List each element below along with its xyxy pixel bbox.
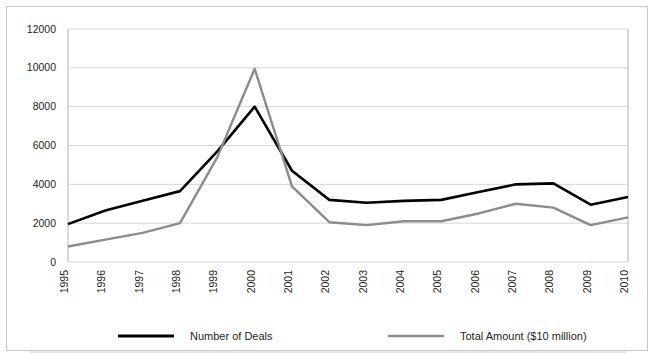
x-axis-tick-label: 2009: [581, 270, 593, 294]
chart-canvas: 020004000600080001000012000 199519961997…: [0, 0, 656, 359]
x-axis-tick-label: 2001: [282, 270, 294, 294]
x-axis-tick-label: 1999: [207, 270, 219, 294]
x-axis-tick-labels: 1995199619971998199920002001200220032004…: [58, 270, 630, 294]
series-line-total-amount: [68, 69, 628, 247]
x-axis-tick-label: 1998: [170, 270, 182, 294]
y-axis-tick-label: 10000: [27, 61, 56, 73]
y-axis-tick-label: 2000: [33, 217, 57, 229]
x-axis-tick-label: 2000: [245, 270, 257, 294]
x-axis-tick-label: 2006: [469, 270, 481, 294]
x-axis-tick-label: 2007: [506, 270, 518, 294]
y-axis-tick-label: 12000: [27, 23, 56, 35]
y-axis-tick-label: 6000: [33, 139, 57, 151]
x-axis-tick-label: 2010: [618, 270, 630, 294]
x-axis-tick-label: 2004: [394, 270, 406, 294]
line-chart: 020004000600080001000012000 199519961997…: [0, 0, 656, 359]
gridlines-group: [68, 29, 628, 262]
y-axis-tick-label: 4000: [33, 178, 57, 190]
x-axis-tick-label: 1997: [133, 270, 145, 294]
x-axis-tick-label: 1996: [95, 270, 107, 294]
data-series-group: [68, 69, 628, 247]
y-axis-tick-labels: 020004000600080001000012000: [27, 23, 56, 268]
x-axis-tick-label: 1995: [58, 270, 70, 294]
x-axis-tick-label: 2005: [431, 270, 443, 294]
legend-label: Number of Deals: [190, 330, 273, 342]
y-axis-tick-label: 0: [50, 256, 56, 268]
legend-label: Total Amount ($10 million): [460, 330, 587, 342]
y-axis-tick-label: 8000: [33, 100, 57, 112]
x-axis-tick-label: 2003: [357, 270, 369, 294]
x-axis-tick-label: 2008: [543, 270, 555, 294]
x-axis-tick-label: 2002: [319, 270, 331, 294]
chart-legend: Number of DealsTotal Amount ($10 million…: [30, 330, 626, 352]
